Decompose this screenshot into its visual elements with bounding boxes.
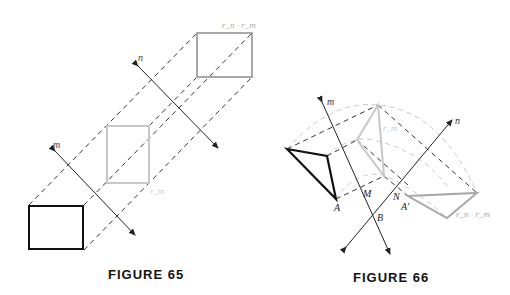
label-n: n xyxy=(138,52,143,63)
label-n-66: n xyxy=(455,115,460,126)
label-A: A xyxy=(333,202,341,213)
line-m xyxy=(55,151,135,235)
label-m-66: m xyxy=(327,96,334,107)
label-r-n-r-m-66: r_n · r_m xyxy=(456,209,490,219)
label-r-n-r-m: r_n · r_m xyxy=(222,20,256,30)
label-M: M xyxy=(362,188,372,199)
reflected-rectangle-nm xyxy=(197,33,252,77)
reflected-triangle-m xyxy=(357,105,384,176)
label-r-m-66: r_m xyxy=(383,123,398,133)
label-B: B xyxy=(377,212,383,223)
original-triangle xyxy=(287,149,336,199)
caption-figure-65: FIGURE 65 xyxy=(108,267,184,282)
caption-figure-66: FIGURE 66 xyxy=(353,270,429,285)
label-m: m xyxy=(53,139,60,150)
figure-65: m n r_m r_n · r_m xyxy=(29,20,256,250)
projection-lines xyxy=(29,33,252,250)
figure-66: m n A A′ B M N r_m r_n · r_m xyxy=(287,96,490,254)
diagram-canvas: m n r_m r_n · r_m m n A A′ B M N r_m xyxy=(0,0,510,295)
original-rectangle xyxy=(29,206,83,249)
reflected-rectangle-m xyxy=(107,126,149,183)
label-A-prime: A′ xyxy=(400,201,410,212)
label-N: N xyxy=(392,191,401,202)
label-r-m: r_m xyxy=(150,186,165,196)
